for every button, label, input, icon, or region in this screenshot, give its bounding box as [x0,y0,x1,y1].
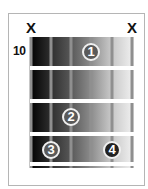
fret-line-4 [30,162,134,166]
muted-string-1-icon: X [127,20,137,35]
muted-string-6-icon: X [26,20,36,35]
fret-line-3 [30,132,134,136]
finger-dot-2: 2 [62,108,80,126]
finger-dot-1: 1 [82,43,100,61]
start-fret-label: 10 [13,44,25,58]
fret-line-1 [30,66,134,70]
fret-line-2 [30,99,134,103]
finger-dot-3: 3 [42,141,60,159]
finger-dot-4: 4 [103,141,121,159]
